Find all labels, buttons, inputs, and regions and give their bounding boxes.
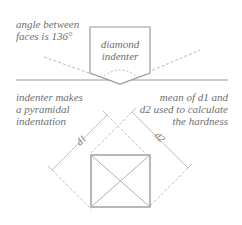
- vickers-hardness-diagram: d1 d2 angle between faces is 136° diamon…: [0, 0, 242, 225]
- indentation-note: indenter makes a pyramidal indentation: [16, 91, 83, 127]
- indentation-square: [91, 155, 150, 207]
- hardness-note: mean of d1 and d2 used to calculate the …: [140, 91, 228, 127]
- angle-note: angle between faces is 136°: [16, 18, 79, 42]
- d1-label: d1: [74, 133, 89, 148]
- indenter-label: diamond indenter: [100, 38, 140, 62]
- d2-label: d2: [153, 130, 168, 145]
